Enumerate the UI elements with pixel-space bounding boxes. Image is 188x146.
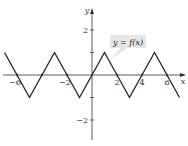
plot-area: xy−6−2246−22 y = f(x) xyxy=(0,0,188,146)
axes: xy−6−2246−22 xyxy=(3,6,186,140)
function-label-callout: y = f(x) xyxy=(110,35,146,60)
y-tick-label: 2 xyxy=(83,26,88,35)
function-graph: xy−6−2246−22 y = f(x) y = f(x) x y xyxy=(0,0,188,146)
y-axis-arrow-icon xyxy=(90,8,94,14)
callout-pointer xyxy=(111,48,127,60)
y-tick-label: −2 xyxy=(76,116,88,125)
callout-text: y = f(x) xyxy=(112,38,143,47)
x-axis-label: x xyxy=(181,77,186,86)
y-axis-label: y xyxy=(84,6,90,15)
